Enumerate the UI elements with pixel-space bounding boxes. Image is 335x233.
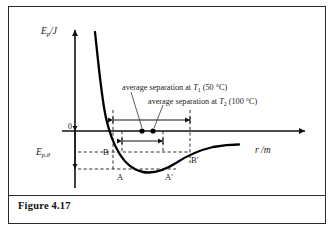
point-label-b-left: B <box>103 147 109 157</box>
potential-energy-diagram: Ep/J r /m 0 Ep,θ B B′ A A′ average separ… <box>0 0 335 233</box>
outer-separation-arrow <box>113 117 190 123</box>
point-label-a-left: A <box>117 172 124 182</box>
leader-t2 <box>154 105 163 128</box>
figure-caption: Figure 4.17 <box>18 200 71 211</box>
y-axis-label: Ep/J <box>40 26 58 37</box>
annotation-t2: average separation at T2 (100 °C) <box>148 97 258 107</box>
origin-label: 0 <box>68 122 72 131</box>
x-axis-label: r /m <box>255 145 271 155</box>
point-label-a-right: A′ <box>165 172 173 182</box>
caption-divider <box>9 195 325 196</box>
marker-dot-t2 <box>150 128 155 133</box>
point-label-b-right: B′ <box>191 155 199 165</box>
inner-separation-arrow <box>122 138 163 144</box>
construction-lines <box>78 110 190 169</box>
annotation-t1: average separation at T1 (50 °C) <box>122 83 227 93</box>
figure-container: Ep/J r /m 0 Ep,θ B B′ A A′ average separ… <box>0 0 335 233</box>
leader-t1 <box>131 92 142 128</box>
well-depth-label: Ep,θ <box>35 147 51 158</box>
marker-dot-t1 <box>139 128 144 133</box>
